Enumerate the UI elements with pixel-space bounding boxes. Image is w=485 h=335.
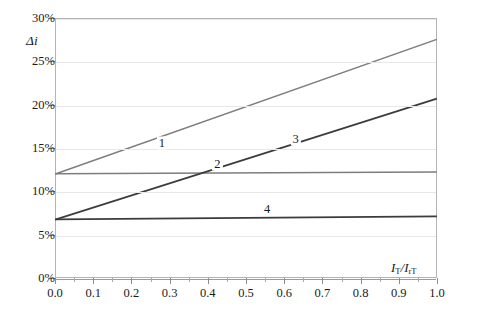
gridline-y-10% bbox=[56, 192, 436, 193]
x-tick-mark-minor bbox=[151, 278, 152, 282]
x-tick-mark-minor bbox=[380, 278, 381, 282]
y-tick-label: 30% bbox=[11, 12, 55, 25]
series-line-2 bbox=[56, 172, 436, 174]
series-label-3: 3 bbox=[291, 133, 301, 146]
plot-area bbox=[55, 18, 437, 278]
x-tick-mark-minor bbox=[112, 278, 113, 282]
y-axis: 0%5%10%15%20%25%30% bbox=[0, 0, 55, 335]
gridline-y-20% bbox=[56, 106, 436, 107]
y-tick-label: 20% bbox=[11, 98, 55, 111]
x-tick-mark-0.1 bbox=[93, 278, 94, 284]
x-axis-title: IT/IrT bbox=[391, 261, 417, 278]
series-label-2: 2 bbox=[212, 158, 222, 171]
x-tick-mark-minor bbox=[303, 278, 304, 282]
x-tick-mark-minor bbox=[227, 278, 228, 282]
x-tick-mark-1.0 bbox=[437, 278, 438, 284]
x-tick-mark-0.8 bbox=[361, 278, 362, 284]
x-tick-mark-0.9 bbox=[399, 278, 400, 284]
x-tick-mark-0.3 bbox=[170, 278, 171, 284]
y-tick-label: 5% bbox=[11, 228, 55, 241]
x-tick-mark-minor bbox=[265, 278, 266, 282]
series-label-1: 1 bbox=[157, 136, 167, 149]
x-tick-mark-0.2 bbox=[131, 278, 132, 284]
x-tick-mark-0.4 bbox=[208, 278, 209, 284]
x-tick-mark-0.6 bbox=[284, 278, 285, 284]
gridline-y-5% bbox=[56, 236, 436, 237]
y-tick-label: 15% bbox=[11, 142, 55, 155]
x-axis-title-denominator-sub: rT bbox=[409, 266, 417, 276]
x-axis: 0.00.10.20.30.40.50.60.70.80.91.0 bbox=[55, 278, 437, 300]
series-layer bbox=[56, 19, 436, 277]
series-line-3 bbox=[56, 99, 436, 219]
x-tick-mark-0.5 bbox=[246, 278, 247, 284]
x-tick-mark-minor bbox=[342, 278, 343, 282]
x-tick-mark-0.0 bbox=[55, 278, 56, 284]
x-tick-mark-minor bbox=[418, 278, 419, 282]
gridline-y-25% bbox=[56, 62, 436, 63]
x-tick-label: 1.0 bbox=[415, 287, 459, 300]
y-tick-label: 10% bbox=[11, 185, 55, 198]
y-tick-label: 25% bbox=[11, 55, 55, 68]
y-tick-label: 0% bbox=[11, 272, 55, 285]
series-line-4 bbox=[56, 216, 436, 219]
gridline-y-30% bbox=[56, 19, 436, 20]
x-tick-mark-0.7 bbox=[322, 278, 323, 284]
series-label-4: 4 bbox=[262, 202, 272, 215]
x-tick-mark-minor bbox=[189, 278, 190, 282]
chart-figure: Δi 0%5%10%15%20%25%30% 0.00.10.20.30.40.… bbox=[0, 0, 485, 335]
gridline-y-15% bbox=[56, 149, 436, 150]
x-tick-mark-minor bbox=[74, 278, 75, 282]
